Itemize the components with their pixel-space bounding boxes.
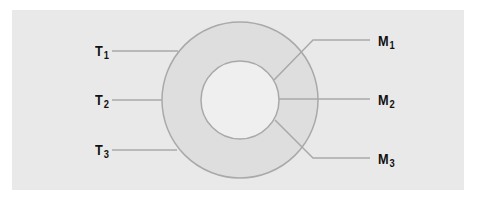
label-m2: M2 [378, 92, 395, 107]
label-m1: M1 [378, 33, 395, 48]
label-subscript: 2 [389, 98, 394, 110]
label-letter: M [378, 150, 389, 167]
label-letter: T [95, 42, 103, 59]
label-subscript: 3 [389, 157, 394, 169]
inner-circle [201, 61, 279, 139]
label-m3: M3 [378, 151, 395, 166]
label-t1: T1 [95, 43, 109, 58]
label-letter: M [378, 91, 389, 108]
label-letter: M [378, 32, 389, 49]
concentric-ring-diagram [0, 0, 477, 198]
label-subscript: 1 [104, 49, 109, 61]
label-t3: T3 [95, 142, 109, 157]
label-letter: T [95, 141, 103, 158]
label-subscript: 2 [104, 98, 109, 110]
label-subscript: 3 [104, 148, 109, 160]
label-subscript: 1 [389, 39, 394, 51]
label-letter: T [95, 91, 103, 108]
label-t2: T2 [95, 92, 109, 107]
